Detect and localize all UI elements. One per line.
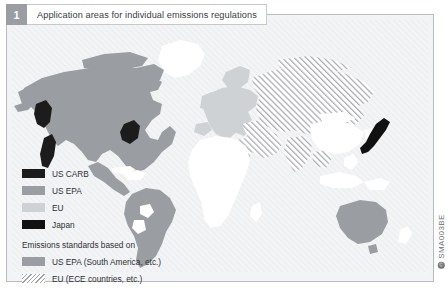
legend-us-epa-south-america-label: US EPA (South America, etc.) [52,257,161,267]
swatch-us-carb [22,169,45,178]
legend-us-epa-south-america: US EPA (South America, etc.) [22,254,161,269]
legend-eu-ece-label: EU (ECE countries, etc.) [52,274,142,284]
swatch-us-epa [22,186,45,195]
swatch-us-epa-south-america [22,257,45,266]
copyright-icon: © [438,261,445,268]
figure-title-box: Application areas for individual emissio… [27,4,267,25]
legend-eu: EU [22,200,161,215]
legend-us-epa-label: US EPA [52,186,82,196]
figure-title-bar: 1 Application areas for individual emiss… [6,4,267,25]
swatch-eu [22,203,45,212]
legend-us-carb-label: US CARB [52,169,89,179]
page-title: Application areas for individual emissio… [37,10,257,20]
legend-eu-ece: EU (ECE countries, etc.) [22,271,161,286]
swatch-japan [22,220,45,229]
map-legend: US CARB US EPA EU Japan Emissions standa… [22,166,161,288]
legend-eu-label: EU [52,203,64,213]
legend-us-epa: US EPA [22,183,161,198]
legend-japan: Japan [22,217,161,232]
swatch-eu-ece [22,274,45,283]
legend-japan-label: Japan [52,220,75,230]
legend-secondary-heading: Emissions standards based on [22,240,161,250]
source-code-text: SMA003BE [437,214,446,259]
legend-us-carb: US CARB [22,166,161,181]
emissions-regulation-figure: 1 Application areas for individual emiss… [0,0,448,296]
figure-number-badge: 1 [6,4,27,25]
source-code-vertical: © SMA003BE [435,196,447,286]
